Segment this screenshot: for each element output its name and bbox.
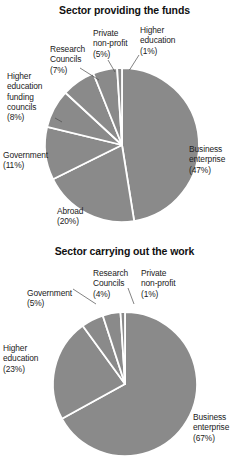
pie-label-abroad: Abroad (20%) [57,206,83,227]
pie-label-higher-education: Higher education (1%) [140,25,175,56]
pie-label-research-councils: Research Councils (7%) [50,44,85,75]
pie-label-higher-education-2: Higher education (23%) [3,343,38,374]
pie-label-private-non-profit: Private non-profit (5%) [93,28,127,59]
pie-label-private-non-profit-2: Private non-profit (1%) [141,268,175,299]
pie-slice-group-funds [45,68,199,222]
pie-label-research-councils-2: Research Councils (4%) [93,268,128,299]
leader-line-research-councils-2 [128,288,134,304]
pie-label-government-2: Government (5%) [27,288,72,309]
leader-line-higher-education [130,55,140,70]
pie-label-business-enterprise-2: Business enterprise (67%) [193,412,229,443]
pie-label-higher-education-funding-councils: Higher education funding councils (8%) [7,71,42,122]
pie-label-business-enterprise: Business enterprise (47%) [189,144,225,175]
pie-slice-group-work [53,312,197,456]
pie-chart-work: Sector carrying out the work Business en… [0,240,249,468]
pie-slice [122,68,199,221]
pie-label-government: Government (11%) [3,150,48,171]
pie-chart-funds: Sector providing the funds Business ente… [0,0,249,240]
